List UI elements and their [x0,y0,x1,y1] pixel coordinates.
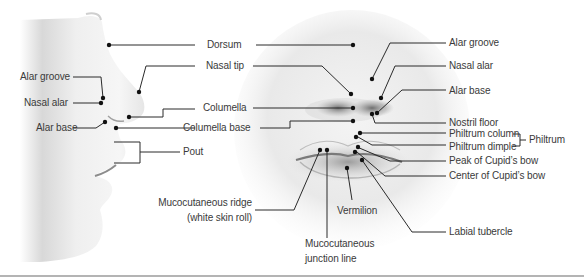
label-profile-alar-base: Alar base [36,122,77,134]
label-philtrum-group: Philtrum [529,134,565,146]
dot-center-cupids-bow [353,150,357,154]
label-labial-tubercle: Labial tubercle [449,226,513,238]
dot-frontal-nostril-floor [370,112,374,116]
nose-lip-anatomy-diagram: Alar groove Nasal alar Alar base Dorsum … [0,0,584,280]
label-dorsum: Dorsum [207,39,241,51]
label-frontal-alar-groove: Alar groove [449,37,499,49]
label-pout: Pout [183,146,203,158]
label-center-cupids-bow: Center of Cupid’s bow [449,170,545,182]
dot-frontal-alar-groove [370,77,374,81]
dot-vermilion [345,166,349,170]
label-profile-alar-groove: Alar groove [20,71,70,83]
dot-mucocutaneous-junction [325,148,329,152]
label-vermilion: Vermilion [337,205,377,217]
label-mucocutaneous-ridge: Mucocutaneous ridge (white skin roll) [142,197,252,224]
dot-profile-alar-base [103,120,107,124]
dot-frontal-nasal-tip [349,92,353,96]
dot-profile-nasal-tip [137,90,141,94]
dot-mucocutaneous-ridge [318,148,322,152]
label-peak-cupids-bow: Peak of Cupid’s bow [449,155,538,167]
label-nasal-tip: Nasal tip [206,60,244,72]
dot-frontal-columella-base [351,119,355,123]
dot-frontal-nasal-alar [379,96,383,100]
profile-face-illustration [20,13,144,262]
dot-frontal-dorsum [351,43,355,47]
dot-frontal-alar-base [375,111,379,115]
dot-profile-nasal-alar [99,101,103,105]
label-mucocutaneous-junction: Mucocutaneous junction line [305,238,374,265]
label-profile-nasal-alar: Nasal alar [24,97,68,109]
label-frontal-alar-base: Alar base [449,85,490,97]
dot-profile-columella [127,115,131,119]
label-philtrum-dimple: Philtrum dimple [449,141,516,153]
bottom-divider [0,275,584,277]
label-philtrum-column: Philtrum column [449,128,519,140]
dot-labial-tubercle [360,158,364,162]
label-columella-base: Columella base [183,122,251,134]
dot-peak-cupids-bow [356,145,360,149]
dot-profile-dorsum [107,43,111,47]
dot-philtrum-column [358,131,362,135]
label-columella: Columella [203,102,247,114]
dot-frontal-columella [351,106,355,110]
dot-profile-alar-groove [101,96,105,100]
label-frontal-nasal-alar: Nasal alar [449,60,493,72]
dot-philtrum-dimple [354,135,358,139]
dot-profile-columella-base [114,126,118,130]
